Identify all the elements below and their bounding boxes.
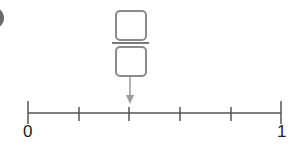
number-line — [0, 0, 291, 157]
pointer-arrow — [126, 77, 134, 104]
label-end: 1 — [277, 122, 286, 142]
label-start: 0 — [23, 122, 32, 142]
